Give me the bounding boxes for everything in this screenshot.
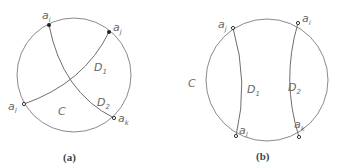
label-aj: aj — [218, 18, 227, 33]
label-ak: ak — [118, 112, 130, 127]
point-al — [234, 134, 237, 137]
label-ak: ak — [294, 118, 306, 133]
figure-b: aj ai al ak C D1 D2 (b) — [188, 12, 328, 163]
outer-circle-a — [17, 18, 131, 132]
arc-aj-al — [233, 28, 242, 136]
label-ai: ai — [302, 12, 311, 27]
figure-a: ai aj al ak D1 D2 C (a) — [8, 9, 131, 164]
outer-circle-b — [206, 19, 328, 141]
label-aj: aj — [113, 21, 122, 36]
point-aj — [231, 26, 234, 29]
region-label-c: C — [58, 105, 66, 118]
region-label-d2: D2 — [97, 96, 110, 111]
region-label-c: C — [188, 77, 196, 90]
label-ai: ai — [42, 9, 51, 24]
label-al: al — [8, 100, 17, 115]
region-label-d1: D1 — [94, 61, 107, 76]
point-aj — [107, 30, 111, 34]
point-al — [22, 102, 25, 105]
caption-a: (a) — [63, 151, 76, 164]
point-ai — [296, 21, 299, 24]
region-label-d2: D2 — [288, 81, 301, 96]
label-al: al — [239, 124, 248, 139]
caption-b: (b) — [256, 150, 270, 163]
diagram-canvas: ai aj al ak D1 D2 C (a) aj ai al ak C D1… — [0, 0, 341, 166]
point-ak — [112, 116, 115, 119]
point-ak — [297, 135, 300, 138]
region-label-d1: D1 — [247, 83, 260, 98]
